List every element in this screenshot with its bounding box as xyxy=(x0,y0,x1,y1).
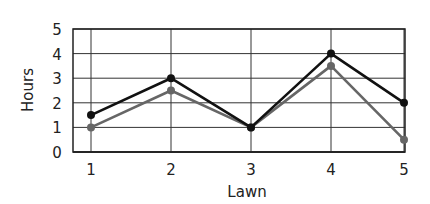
x-tick-label: 3 xyxy=(246,161,256,179)
data-point xyxy=(327,50,335,58)
y-tick-label: 4 xyxy=(52,46,62,64)
y-tick-label: 3 xyxy=(52,70,62,88)
y-axis-ticks: 012345 xyxy=(52,21,62,162)
y-tick-label: 2 xyxy=(52,95,62,113)
x-tick-label: 2 xyxy=(166,161,176,179)
data-point xyxy=(400,99,408,107)
x-axis-label: Lawn xyxy=(227,183,266,201)
data-point xyxy=(327,62,335,70)
line-chart: 012345 12345 Hours Lawn xyxy=(0,0,430,204)
data-point xyxy=(167,87,175,95)
data-point xyxy=(87,123,95,131)
y-tick-label: 0 xyxy=(52,144,62,162)
y-axis-label: Hours xyxy=(19,68,37,112)
data-point xyxy=(87,111,95,119)
y-tick-label: 5 xyxy=(52,21,62,39)
x-axis-ticks: 12345 xyxy=(86,161,409,179)
data-point xyxy=(167,74,175,82)
data-point xyxy=(400,136,408,144)
data-point xyxy=(247,123,255,131)
series-lines xyxy=(87,50,408,144)
x-tick-label: 5 xyxy=(399,161,409,179)
y-tick-label: 1 xyxy=(52,119,62,137)
x-tick-label: 4 xyxy=(326,161,336,179)
x-tick-label: 1 xyxy=(86,161,96,179)
